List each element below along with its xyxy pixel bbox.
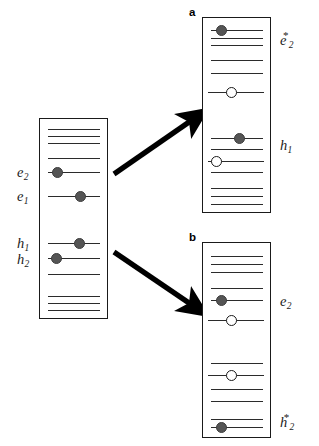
energy-level-line bbox=[48, 310, 100, 311]
state-label: e2 bbox=[17, 165, 28, 182]
energy-level-line bbox=[48, 158, 100, 159]
arrow-to-panel-b bbox=[114, 252, 192, 305]
energy-level-line bbox=[211, 196, 263, 197]
energy-level-line bbox=[48, 136, 100, 137]
figure-canvas: e2e1h1h2e*2h1e2h*2 a b bbox=[0, 0, 319, 446]
panel-a-tag: a bbox=[189, 6, 195, 18]
energy-level-line bbox=[211, 60, 263, 61]
energy-level-line bbox=[211, 288, 263, 289]
electron-marker bbox=[74, 238, 85, 249]
energy-level-line bbox=[211, 272, 263, 273]
electron-marker bbox=[75, 191, 86, 202]
hole-marker bbox=[211, 156, 222, 167]
energy-level-line bbox=[48, 143, 100, 144]
energy-level-line bbox=[48, 274, 100, 275]
hole-marker bbox=[226, 370, 237, 381]
energy-level-line bbox=[211, 204, 263, 205]
state-label: h1 bbox=[280, 138, 292, 155]
energy-level-line bbox=[48, 303, 100, 304]
energy-level-line bbox=[211, 45, 263, 46]
energy-level-line bbox=[211, 264, 263, 265]
electron-marker bbox=[216, 25, 227, 36]
energy-level-line bbox=[211, 256, 263, 257]
energy-level-line bbox=[211, 401, 263, 402]
panel-a-box bbox=[202, 17, 271, 213]
hole-marker bbox=[226, 315, 237, 326]
state-label: e1 bbox=[17, 189, 28, 206]
hole-marker bbox=[226, 87, 237, 98]
energy-level-line bbox=[211, 389, 263, 390]
state-label: e*2 bbox=[280, 30, 293, 50]
arrow-to-panel-a bbox=[114, 120, 192, 174]
electron-marker bbox=[52, 167, 63, 178]
energy-level-line bbox=[48, 296, 100, 297]
state-label: h2 bbox=[17, 252, 29, 269]
energy-level-line bbox=[211, 172, 263, 173]
energy-level-line bbox=[211, 149, 263, 150]
energy-level-line bbox=[48, 129, 100, 130]
energy-level-line bbox=[211, 419, 263, 420]
state-label: h*2 bbox=[280, 412, 294, 432]
panel-b-tag: b bbox=[189, 231, 196, 243]
energy-level-line bbox=[211, 73, 263, 74]
energy-level-line bbox=[211, 188, 263, 189]
electron-marker bbox=[216, 422, 227, 433]
ground-state-box bbox=[39, 118, 108, 319]
state-label: e2 bbox=[280, 294, 291, 311]
electron-marker bbox=[216, 295, 227, 306]
electron-marker bbox=[234, 133, 245, 144]
electron-marker bbox=[51, 253, 62, 264]
energy-level-line bbox=[211, 363, 263, 364]
energy-level-line bbox=[211, 38, 263, 39]
